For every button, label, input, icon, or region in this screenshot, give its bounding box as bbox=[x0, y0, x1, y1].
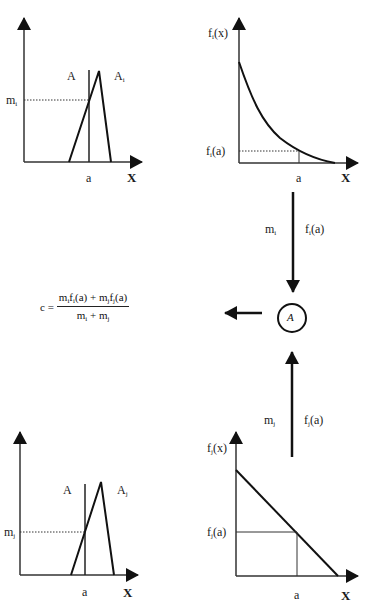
x-point-a-label: a bbox=[296, 172, 301, 184]
exponential-curve bbox=[239, 62, 335, 163]
x-point-a-label: a bbox=[86, 172, 91, 184]
formula-numerator: mifi(a) + mjfj(a) bbox=[57, 291, 129, 307]
membership-mi-label: mi bbox=[6, 94, 17, 108]
fj-a-label: fj(a) bbox=[207, 526, 226, 540]
fuzzy-triangle-ai bbox=[69, 71, 111, 162]
panel-top-right bbox=[239, 18, 358, 163]
flow-down-mi-label: mi bbox=[265, 223, 276, 237]
x-point-a-label: a bbox=[294, 589, 299, 601]
x-axis-label: X bbox=[341, 171, 350, 184]
x-axis-label: X bbox=[123, 586, 132, 599]
formula-lhs: c = bbox=[40, 301, 54, 313]
fj-x-label: fj(x) bbox=[207, 442, 227, 456]
set-a-label: A bbox=[67, 70, 76, 82]
aggregation-node-label: A bbox=[287, 311, 294, 323]
fuzzy-triangle-aj bbox=[71, 482, 114, 575]
linear-line bbox=[236, 470, 338, 576]
fi-a-label: fi(a) bbox=[206, 145, 225, 159]
centroid-formula: c = mifi(a) + mjfj(a) mi + mj bbox=[40, 291, 129, 323]
x-axis-label: X bbox=[127, 171, 136, 184]
flow-down-fi-a-label: fi(a) bbox=[305, 223, 324, 237]
fi-x-label: fi(x) bbox=[208, 27, 228, 41]
formula-denominator: mi + mj bbox=[77, 307, 110, 323]
panel-bottom-right bbox=[236, 432, 358, 576]
fuzzy-aj-label: Aj bbox=[117, 484, 128, 498]
x-axis-label: X bbox=[341, 589, 350, 602]
membership-mj-label: mj bbox=[4, 526, 15, 540]
formula-fraction: mifi(a) + mjfj(a) mi + mj bbox=[57, 291, 129, 323]
panel-top-left bbox=[24, 18, 142, 162]
x-point-a-label: a bbox=[82, 586, 87, 598]
set-a-label: A bbox=[63, 484, 72, 496]
flow-up-mj-label: mj bbox=[264, 414, 275, 428]
fuzzy-ai-label: Ai bbox=[114, 70, 125, 84]
flow-up-fj-a-label: fj(a) bbox=[304, 414, 323, 428]
panel-bottom-left bbox=[20, 432, 138, 575]
